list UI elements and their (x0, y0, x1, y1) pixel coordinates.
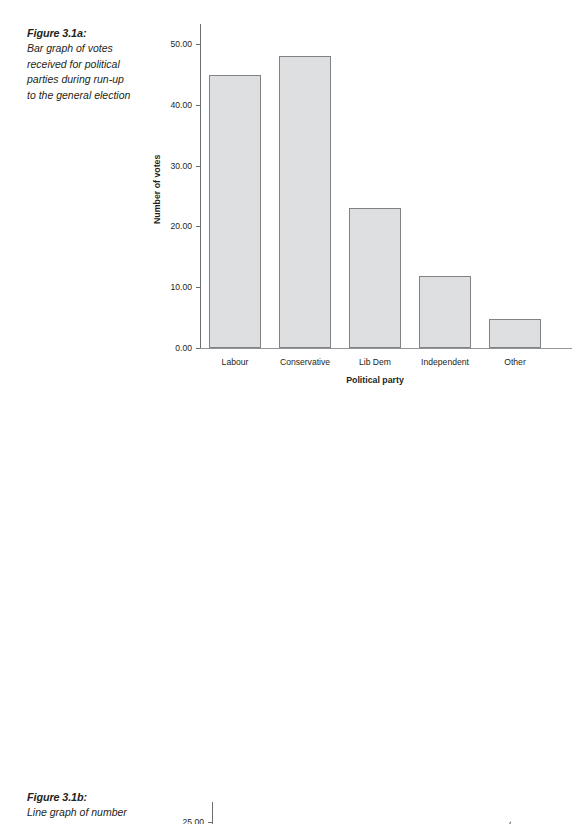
bar-chart-y-tick-label: 50.00 (158, 39, 192, 49)
figure-b-caption-label: Figure 3.1b: (27, 790, 131, 805)
bar-chart-bar (349, 208, 401, 348)
bar-chart-y-tick (196, 226, 200, 227)
bar-chart-category-label: Lib Dem (359, 357, 391, 367)
line-chart-series (118, 798, 563, 824)
bar-chart-bar (489, 319, 541, 348)
figure-b-caption: Figure 3.1b: Line graph of number of err… (27, 790, 131, 824)
bar-chart-y-tick-label: 30.00 (158, 161, 192, 171)
bar-chart-category-label: Other (504, 357, 526, 367)
bar-chart-y-tick (196, 44, 200, 45)
bar-chart-x-axis-title: Political party (346, 375, 404, 385)
bar-chart-bar (419, 276, 471, 348)
bar-chart-y-axis-title: Number of votes (152, 155, 162, 224)
bar-chart-category-label: Labour (222, 357, 249, 367)
bar-chart-category-label: Conservative (280, 357, 330, 367)
figure-3-1a: Figure 3.1a: Bar graph of votes received… (0, 0, 575, 390)
bar-chart-y-tick-label: 40.00 (158, 100, 192, 110)
figure-a-caption-label: Figure 3.1a: (27, 26, 131, 41)
figure-a-caption-text: Bar graph of votes received for politica… (27, 41, 131, 103)
bar-chart-category-label: Independent (421, 357, 469, 367)
bar-chart-y-tick (196, 105, 200, 106)
bar-chart-bar (209, 75, 261, 348)
bar-chart-y-tick-label: 20.00 (158, 221, 192, 231)
figure-3-1b: Figure 3.1b: Line graph of number of err… (0, 390, 575, 824)
bar-chart-y-tick (196, 287, 200, 288)
bar-chart-y-tick-label: 0.00 (158, 343, 192, 353)
bar-chart-y-tick-label: 10.00 (158, 282, 192, 292)
bar-chart-y-axis (200, 24, 201, 348)
bar-chart: 0.0010.0020.0030.0040.0050.00 LabourCons… (138, 22, 558, 382)
figure-b-caption-text: Line graph of number of errors committed… (27, 805, 131, 824)
bar-chart-y-tick (196, 348, 200, 349)
bar-chart-y-tick (196, 166, 200, 167)
bar-chart-x-axis (198, 348, 572, 349)
line-chart: 0.005.0010.0015.0020.0025.00 61218243036… (118, 798, 563, 824)
figure-a-caption: Figure 3.1a: Bar graph of votes received… (27, 26, 131, 103)
bar-chart-bar (279, 56, 331, 348)
